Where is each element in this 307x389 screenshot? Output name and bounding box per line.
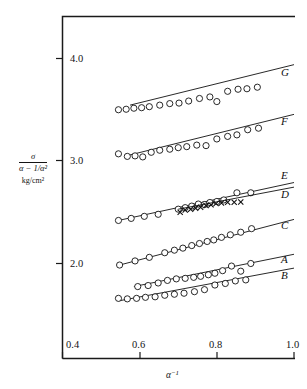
data-point [167, 101, 173, 107]
data-point [171, 247, 177, 253]
y-tick-label-4-0: 4.0 [70, 53, 83, 64]
data-point [203, 143, 209, 149]
data-point [254, 84, 260, 90]
data-point [180, 245, 186, 251]
data-point [124, 296, 130, 302]
curve-label-D: D [280, 188, 289, 200]
data-point [198, 273, 204, 279]
data-point [176, 100, 182, 106]
data-point [225, 88, 231, 94]
data-point [234, 132, 240, 138]
x-tick-label-0-8: 0.8 [209, 339, 222, 350]
x-axis-ticks [63, 352, 295, 359]
series-E [115, 183, 294, 224]
data-point [142, 294, 148, 300]
data-point [222, 280, 228, 286]
y-tick-label-2-0: 2.0 [70, 258, 83, 269]
data-point [139, 105, 145, 111]
data-point [243, 277, 249, 283]
data-point [194, 142, 200, 148]
data-point [128, 215, 134, 221]
curve-label-E: E [280, 169, 288, 181]
series-G [115, 65, 294, 113]
data-point [173, 276, 179, 282]
data-point [182, 275, 188, 281]
data-point [218, 234, 224, 240]
data-point [201, 287, 207, 293]
data-point [115, 217, 121, 223]
x-axis-title-base: α−1 [166, 369, 179, 380]
data-point [181, 290, 187, 296]
data-point [131, 105, 137, 111]
data-point [228, 263, 234, 269]
curve-label-B: B [281, 269, 288, 281]
series-F [115, 114, 294, 160]
data-point [214, 136, 220, 142]
data-point [135, 283, 141, 289]
data-point [132, 153, 138, 159]
data-point [171, 291, 177, 297]
curve-label-C: C [281, 219, 289, 231]
data-point [155, 280, 161, 286]
y-axis-fraction: σ α − 1/α² [19, 152, 47, 173]
data-point [115, 107, 121, 113]
data-point [227, 232, 233, 238]
data-point [238, 229, 244, 235]
data-point [184, 144, 190, 150]
mooney-rivlin-plot: 4.0 3.0 2.0 0.4 0.6 0.8 1.0 α−1 GFEDCAB [0, 0, 307, 389]
data-point [164, 277, 170, 283]
data-point [157, 102, 163, 108]
data-point [140, 154, 146, 160]
frame-top-left-rule [63, 17, 296, 359]
series-C [117, 219, 295, 268]
y-tick-label-3-0: 3.0 [70, 155, 83, 166]
data-point [244, 86, 250, 92]
data-point [152, 294, 158, 300]
data-point [191, 274, 197, 280]
data-point [255, 125, 261, 131]
data-point [162, 292, 168, 298]
data-point [167, 146, 173, 152]
data-point [232, 200, 237, 205]
data-point [133, 295, 139, 301]
data-point [115, 295, 121, 301]
figure-container: 4.0 3.0 2.0 0.4 0.6 0.8 1.0 α−1 GFEDCAB … [0, 0, 307, 389]
curve-label-G: G [281, 66, 289, 78]
x-tick-label-0-6: 0.6 [132, 339, 145, 350]
data-point [212, 270, 218, 276]
data-point [214, 98, 220, 104]
data-point [248, 260, 254, 266]
data-point [212, 282, 218, 288]
data-point [191, 289, 197, 295]
data-point [238, 199, 243, 204]
curve-label-A: A [280, 253, 288, 265]
data-point [123, 106, 129, 112]
data-point [196, 240, 202, 246]
y-axis-numerator: σ [19, 152, 47, 163]
y-axis-title: σ α − 1/α² kg/cm² [6, 152, 60, 186]
x-axis-title: α−1 [166, 369, 179, 380]
data-point [115, 151, 121, 157]
data-point [146, 104, 152, 110]
data-point [245, 127, 251, 133]
data-point [132, 258, 138, 264]
x-tick-label-0-4: 0.4 [66, 339, 80, 350]
data-point [211, 237, 217, 243]
data-point [141, 213, 147, 219]
data-point [204, 238, 210, 244]
data-point [124, 153, 130, 159]
data-point [175, 145, 181, 151]
data-point [117, 262, 123, 268]
x-tick-label-1-0: 1.0 [286, 339, 299, 350]
data-point [157, 147, 163, 153]
data-point [145, 282, 151, 288]
data-point [186, 98, 192, 104]
data-point [207, 94, 213, 100]
data-series-layer [115, 65, 294, 302]
curve-labels-layer: GFEDCAB [280, 66, 289, 281]
data-point [232, 278, 238, 284]
data-point [155, 211, 161, 217]
data-point [162, 250, 168, 256]
data-point [248, 226, 254, 232]
data-point [146, 254, 152, 260]
